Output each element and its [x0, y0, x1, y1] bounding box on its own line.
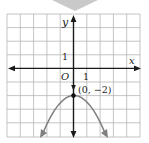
- y-axis-up-arrow-icon: [71, 15, 77, 22]
- x-axis-left-arrow-icon: [8, 66, 15, 72]
- y-axis-label: y: [61, 16, 69, 29]
- chevron-down-icon: [52, 0, 98, 11]
- y-axis: [71, 15, 77, 138]
- x-tick-label: 1: [83, 71, 89, 82]
- vertex-pointer-arrow-icon: [71, 85, 76, 91]
- y-tick-label: 1: [62, 51, 68, 62]
- x-axis: [8, 66, 141, 72]
- vertex-point: [71, 93, 76, 98]
- x-axis-label: x: [129, 55, 135, 66]
- parabola-graph: y x 1 O 1 (0, −2): [0, 0, 149, 143]
- origin-label: O: [61, 71, 69, 82]
- vertex-label: (0, −2): [78, 84, 112, 95]
